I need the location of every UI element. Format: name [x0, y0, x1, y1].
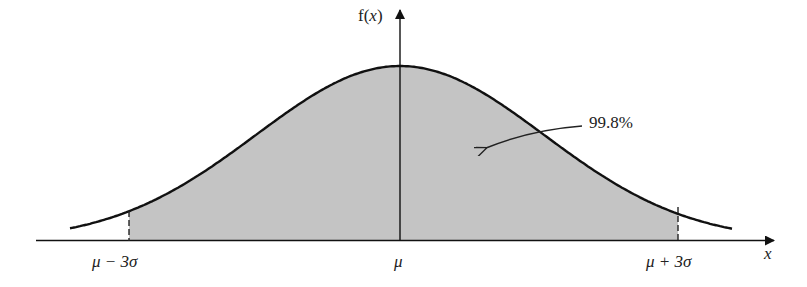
normal-distribution-chart: [0, 0, 807, 287]
x-axis-label: x: [764, 244, 772, 264]
tick-label-mu: μ: [394, 252, 403, 272]
y-axis-label: f(x): [358, 6, 383, 26]
shaded-area-99-8-percent: [129, 66, 678, 241]
percentage-annotation: 99.8%: [589, 113, 633, 133]
tick-label-mu-minus-3sigma: μ − 3σ: [92, 252, 137, 272]
tick-label-mu-plus-3sigma: μ + 3σ: [646, 252, 691, 272]
